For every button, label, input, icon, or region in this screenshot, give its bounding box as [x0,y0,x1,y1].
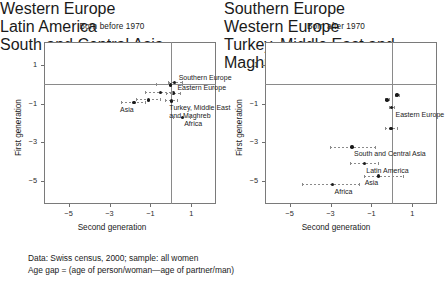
data-point-marker [169,83,172,86]
y-axis-title: First generation [14,99,23,156]
x-tick-mark [110,204,111,207]
confidence-interval-cap [145,91,146,94]
figure-scatter-age-gap: Born before 1970 1−1−3−5−5−3−11Second ge… [0,0,448,289]
confidence-interval-bar [364,176,403,177]
data-point-label: Africa [184,120,202,128]
confidence-interval-cap [173,116,174,119]
confidence-interval-cap [121,101,122,104]
data-point-marker [147,98,150,101]
confidence-interval-cap [160,98,161,101]
confidence-interval-cap [403,175,404,178]
x-tick-mark [191,204,192,207]
data-point-label: South and Central Asia [354,150,426,158]
data-point-label: Turkey, Middle East and Maghreb [169,104,231,121]
zero-reference-line-vertical [171,42,172,204]
x-axis-title: Second generation [0,223,224,232]
confidence-interval-cap [136,98,137,101]
data-point-label: Eastern Europe [396,111,445,119]
x-tick-label: −5 [280,209,300,218]
x-tick-label: −1 [361,209,381,218]
caption-age-gap-definition: Age gap = (age of person/woman—age of pa… [28,265,438,277]
data-point-label: Southern Europe [224,0,448,18]
x-tick-mark [69,204,70,207]
y-tick-mark [262,142,265,143]
y-tick-mark [41,104,44,105]
data-point-label: Asia [365,179,379,187]
y-tick-mark [262,65,265,66]
x-tick-mark [331,204,332,207]
data-point-label: Western Europe [0,0,224,18]
confidence-interval-cap [378,162,379,165]
caption-data-source: Data: Swiss census, 2000; sample: all wo… [28,253,438,265]
x-tick-label: −3 [100,209,120,218]
confidence-interval-cap [350,162,351,165]
confidence-interval-cap [172,91,173,94]
confidence-interval-cap [156,83,157,86]
x-tick-label: −3 [321,209,341,218]
x-tick-mark [150,204,151,207]
confidence-interval-cap [397,127,398,130]
plot-area-right [265,42,437,204]
x-tick-mark [412,204,413,207]
y-tick-label: −5 [240,176,258,185]
confidence-interval-cap [165,99,166,102]
confidence-interval-cap [190,116,191,119]
confidence-interval-cap [302,183,303,186]
zero-reference-line-vertical [392,42,393,204]
y-tick-mark [262,104,265,105]
confidence-interval-cap [394,106,395,109]
data-point-label: Africa [335,188,353,196]
panel-born-before-1970: Born before 1970 1−1−3−5−5−3−11Second ge… [0,0,224,250]
confidence-interval-cap [389,98,390,101]
data-point-marker [170,99,173,102]
y-tick-label: −5 [19,176,37,185]
confidence-interval-cap [399,94,400,97]
data-point-marker [395,93,398,96]
confidence-interval-cap [385,127,386,130]
y-tick-mark [262,181,265,182]
confidence-interval-cap [145,101,146,104]
y-tick-label: 1 [19,60,37,69]
confidence-interval-cap [330,146,331,149]
confidence-interval-cap [375,146,376,149]
panel-born-after-1970: Born after 1970 1−1−3−5−5−3−11Second gen… [224,0,448,250]
y-tick-label: 1 [240,60,258,69]
y-tick-mark [41,65,44,66]
zero-reference-line-horizontal [265,84,437,85]
panel-title-right: Born after 1970 [224,22,448,31]
x-tick-label: 1 [181,209,201,218]
x-tick-mark [290,204,291,207]
data-point-marker [385,98,388,101]
y-tick-mark [41,181,44,182]
confidence-interval-cap [359,183,360,186]
x-axis-title: Second generation [224,223,448,232]
x-tick-label: −1 [140,209,160,218]
confidence-interval-cap [364,175,365,178]
data-point-marker [350,145,353,148]
confidence-interval-cap [177,99,178,102]
x-tick-mark [371,204,372,207]
y-axis-title: First generation [235,99,244,156]
x-tick-label: −5 [59,209,79,218]
data-point-marker [181,116,184,119]
panel-title-left: Born before 1970 [0,22,224,31]
data-point-label: Asia [120,106,134,114]
y-tick-mark [41,142,44,143]
x-tick-label: 1 [402,209,422,218]
